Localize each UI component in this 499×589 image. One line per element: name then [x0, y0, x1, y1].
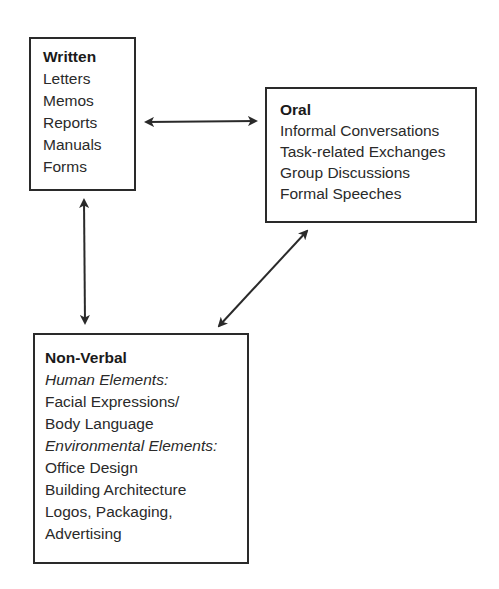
- nonverbal-title: Non-Verbal: [45, 347, 127, 369]
- oral-item: Formal Speeches: [280, 183, 401, 204]
- oral-box: Oral Informal Conversations Task-related…: [265, 87, 477, 223]
- nonverbal-item: Office Design: [45, 457, 138, 479]
- oral-item: Group Discussions: [280, 162, 410, 183]
- nonverbal-item: Facial Expressions/: [45, 391, 179, 413]
- oral-item: Task-related Exchanges: [280, 141, 445, 162]
- written-item: Manuals: [43, 134, 102, 156]
- arrow-written-oral: [146, 121, 256, 122]
- arrow-oral-nonverbal: [219, 231, 307, 326]
- nonverbal-item: Advertising: [45, 523, 122, 545]
- written-item: Letters: [43, 68, 90, 90]
- oral-title: Oral: [280, 99, 311, 120]
- written-item: Forms: [43, 156, 87, 178]
- oral-item: Informal Conversations: [280, 120, 439, 141]
- arrow-written-nonverbal: [84, 200, 85, 323]
- written-title: Written: [43, 46, 96, 68]
- nonverbal-item: Building Architecture: [45, 479, 186, 501]
- human-elements-heading: Human Elements:: [45, 369, 168, 391]
- written-box: Written Letters Memos Reports Manuals Fo…: [29, 37, 136, 191]
- written-item: Reports: [43, 112, 97, 134]
- written-item: Memos: [43, 90, 94, 112]
- nonverbal-item: Body Language: [45, 413, 154, 435]
- nonverbal-box: Non-Verbal Human Elements: Facial Expres…: [33, 333, 249, 564]
- environmental-elements-heading: Environmental Elements:: [45, 435, 217, 457]
- nonverbal-item: Logos, Packaging,: [45, 501, 173, 523]
